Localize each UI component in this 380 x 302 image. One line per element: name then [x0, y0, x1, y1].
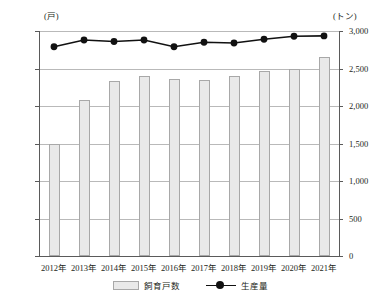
right-axis-line — [339, 31, 340, 256]
line-path — [54, 36, 324, 47]
line-data-point — [111, 38, 118, 45]
bottom-axis-line — [39, 256, 340, 257]
x-axis-tick-label: 2017年 — [187, 261, 221, 273]
line-data-point — [261, 36, 268, 43]
right-axis-tick-label: 2,500 — [349, 65, 368, 74]
line-data-point — [231, 40, 238, 47]
x-axis-tick-label: 2014年 — [97, 261, 131, 273]
right-axis-unit-label: (トン) — [333, 9, 357, 21]
line-marker-icon — [206, 281, 236, 290]
left-axis-unit-label: (戸) — [44, 9, 59, 21]
line-data-point — [201, 39, 208, 46]
right-axis-tick-label: 0 — [349, 252, 353, 261]
legend-item-line: 生産量 — [206, 279, 268, 291]
line-data-point — [51, 43, 58, 50]
x-axis-tick-label: 2015年 — [127, 261, 161, 273]
x-axis-tick-label: 2020年 — [277, 261, 311, 273]
line-data-point — [321, 32, 328, 39]
right-axis-tick-label: 2,000 — [349, 102, 368, 111]
x-axis-tick-label: 2021年 — [307, 261, 341, 273]
bar-swatch-icon — [113, 281, 139, 290]
dual-axis-chart: (戸) (トン) 02,0004,0006,0008,00010,00012,0… — [0, 0, 380, 302]
right-axis-tick-label: 1,500 — [349, 140, 368, 149]
line-data-point — [141, 37, 148, 44]
right-axis-tick-label: 500 — [349, 215, 362, 224]
right-axis-tick-label: 1,000 — [349, 177, 368, 186]
x-axis-tick-label: 2018年 — [217, 261, 251, 273]
line-data-point — [171, 43, 178, 50]
plot-area — [39, 31, 339, 256]
x-axis-tick-label: 2019年 — [247, 261, 281, 273]
x-axis-tick-label: 2013年 — [67, 261, 101, 273]
legend-line-label: 生産量 — [241, 279, 268, 291]
legend-item-bar: 飼育戸数 — [113, 279, 180, 291]
x-axis-tick-label: 2012年 — [37, 261, 71, 273]
legend-bar-label: 飼育戸数 — [144, 279, 180, 291]
line-data-point — [81, 37, 88, 44]
line-series — [39, 31, 339, 256]
line-data-point — [291, 33, 298, 40]
legend: 飼育戸数 生産量 — [0, 279, 380, 291]
x-axis-tick-label: 2016年 — [157, 261, 191, 273]
right-axis-tick-label: 3,000 — [349, 27, 368, 36]
